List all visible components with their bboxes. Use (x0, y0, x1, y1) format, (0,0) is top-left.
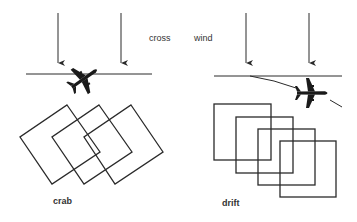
photo-frame (20, 105, 100, 184)
cross-label: cross (149, 33, 171, 43)
crab-panel: crab (20, 13, 163, 206)
photo-frame (84, 105, 163, 184)
crab-drift-diagram: crab cross wind drift (0, 0, 357, 222)
airplane-icon (295, 78, 328, 108)
crab-label: crab (53, 196, 73, 206)
crab-photo-frames (20, 105, 163, 184)
drift-photo-frames (214, 104, 336, 197)
drift-track (250, 76, 296, 88)
photo-frame (280, 141, 336, 197)
drift-track (330, 100, 342, 107)
airplane-icon (62, 57, 106, 100)
wind-label: wind (193, 33, 213, 43)
photo-frame (214, 104, 271, 160)
drift-label: drift (222, 198, 240, 208)
drift-panel: drift (214, 13, 342, 208)
photo-frame (236, 117, 293, 173)
photo-frame (52, 105, 132, 184)
photo-frame (258, 129, 315, 185)
